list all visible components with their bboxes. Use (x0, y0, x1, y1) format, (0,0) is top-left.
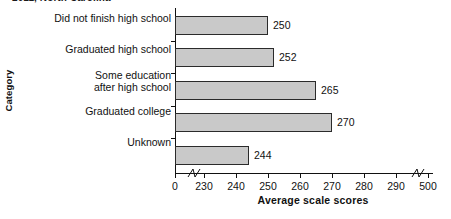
x-axis-tick-label: 240 (221, 180, 251, 192)
bar-value-label: 244 (254, 146, 272, 165)
category-label: Some education after high school (16, 70, 171, 93)
x-axis-tick (332, 173, 333, 178)
plot-area: 250 252 265 270 244 0 230 240 250 260 27… (175, 8, 451, 173)
bar (175, 16, 268, 35)
x-axis-tick (364, 173, 365, 178)
bar (175, 146, 249, 165)
category-label: Graduated high school (16, 44, 171, 56)
y-axis-tick (171, 41, 175, 42)
bar-value-label: 270 (337, 113, 355, 132)
x-axis-tick (428, 173, 429, 178)
x-axis-tick (396, 173, 397, 178)
y-axis-tick (171, 106, 175, 107)
category-labels: Did not finish high school Graduated hig… (14, 0, 171, 173)
x-axis-tick (268, 173, 269, 178)
category-label: Graduated college (16, 106, 171, 118)
x-axis-tick-label: 260 (285, 180, 315, 192)
y-axis-tick (171, 138, 175, 139)
y-axis-tick (171, 73, 175, 74)
x-axis-tick (204, 173, 205, 178)
x-axis-tick (175, 173, 176, 178)
x-axis-tick-label: 230 (189, 180, 219, 192)
category-label: Unknown (16, 137, 171, 149)
x-axis-title: Average scale scores (175, 194, 451, 206)
bar-value-label: 250 (273, 16, 291, 35)
x-axis-tick (300, 173, 301, 178)
bar (175, 48, 274, 67)
bar-value-label: 252 (279, 48, 297, 67)
axis-break-icon (410, 168, 426, 179)
x-axis-tick-label: 270 (317, 180, 347, 192)
bar (175, 113, 332, 132)
x-axis-tick-label: 280 (349, 180, 379, 192)
bar-value-label: 265 (321, 81, 339, 100)
bar (175, 81, 316, 100)
axis-break-icon (186, 168, 202, 179)
x-axis-tick (236, 173, 237, 178)
bar-chart: 2011, North Carolina Category Did not fi… (0, 0, 451, 219)
category-label: Did not finish high school (16, 13, 171, 25)
x-axis-tick-label: 500 (413, 180, 443, 192)
x-axis-tick-label: 0 (160, 180, 190, 192)
y-axis-title: Category (3, 61, 14, 121)
x-axis-line (175, 173, 433, 174)
x-axis-tick-label: 290 (381, 180, 411, 192)
x-axis-tick-label: 250 (253, 180, 283, 192)
